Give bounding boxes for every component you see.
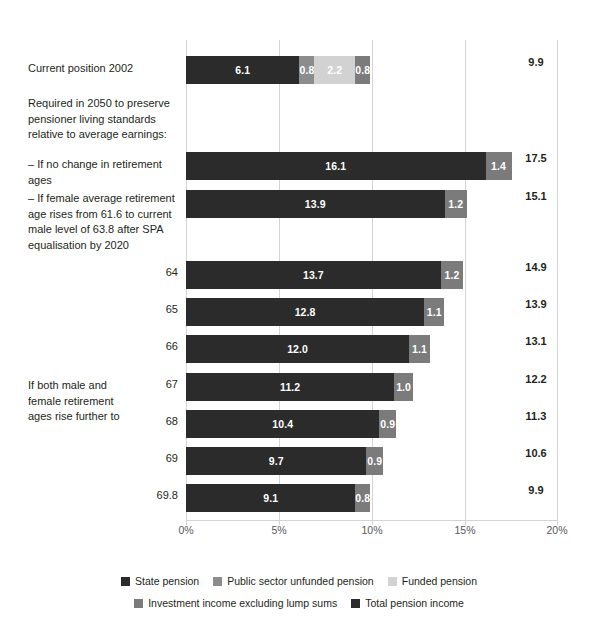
segment-investment-income: 1.2 [441,261,463,289]
legend-item-public-sector-unfunded-pension: Public sector unfunded pension [213,575,374,587]
bar-row-69-8: 9.1 0.8 9.9 [0,484,598,512]
pension-income-stacked-bar-chart: Current position 2002 Required in 2050 t… [0,0,598,639]
bar-row-69: 9.7 0.9 10.6 [0,447,598,475]
legend-label-funded-pension: Funded pension [402,575,477,587]
bar-row-current-position-2002: 6.1 0.8 2.2 0.8 9.9 [0,56,598,84]
legend-row-2: Investment income excluding lump sums To… [0,592,598,614]
stacked-bar: 16.1 1.4 [186,152,512,180]
segment-investment-income: 1.0 [394,373,413,401]
segment-state-pension: 12.0 [186,335,409,363]
bar-row-female-age-rise: 13.9 1.2 15.1 [0,190,598,218]
xtick-label-10pct: 10% [342,524,402,536]
segment-investment-income: 1.1 [424,298,444,326]
legend-swatch-icon-investment-income [134,599,143,608]
segment-investment-income: 0.9 [379,410,396,438]
segment-state-pension: 16.1 [186,152,486,180]
legend-row-1: State pension Public sector unfunded pen… [0,570,598,592]
bar-row-no-change: 16.1 1.4 17.5 [0,152,598,180]
row-total-value: 17.5 [514,152,558,164]
segment-investment-income: 0.8 [355,56,370,84]
legend-item-funded-pension: Funded pension [388,575,477,587]
segment-state-pension: 11.2 [186,373,394,401]
segment-investment-income: 0.9 [366,447,383,475]
intro-label: Required in 2050 to preserve pensioner l… [28,96,188,143]
xtick-label-20pct: 20% [527,524,587,536]
segment-state-pension: 6.1 [186,56,299,84]
segment-funded-pension: 2.2 [314,56,355,84]
row-total-value: 12.2 [514,373,558,385]
bar-row-65: 12.8 1.1 13.9 [0,298,598,326]
stacked-bar: 11.2 1.0 [186,373,413,401]
stacked-bar: 10.4 0.9 [186,410,396,438]
legend-swatch-icon-funded-pension [388,577,397,586]
segment-state-pension: 10.4 [186,410,379,438]
segment-investment-income: 1.4 [486,152,512,180]
legend-item-total-pension-income: Total pension income [351,597,464,609]
legend-item-investment-income: Investment income excluding lump sums [134,597,337,609]
bar-row-66: 12.0 1.1 13.1 [0,335,598,363]
stacked-bar: 9.7 0.9 [186,447,383,475]
legend-item-state-pension: State pension [121,575,199,587]
row-total-value: 13.9 [514,298,558,310]
stacked-bar: 6.1 0.8 2.2 0.8 [186,56,370,84]
segment-state-pension: 9.1 [186,484,355,512]
row-total-value: 10.6 [514,447,558,459]
row-total-value: 13.1 [514,335,558,347]
stacked-bar: 9.1 0.8 [186,484,370,512]
row-total-value: 14.9 [514,261,558,273]
segment-investment-income: 1.1 [409,335,430,363]
chart-legend: State pension Public sector unfunded pen… [0,570,598,614]
stacked-bar: 13.9 1.2 [186,190,467,218]
bar-row-64: 13.7 1.2 14.9 [0,261,598,289]
legend-swatch-icon-public-sector [213,577,222,586]
legend-swatch-icon-total-pension-income [351,599,360,608]
xtick-label-15pct: 15% [435,524,495,536]
segment-state-pension: 13.7 [186,261,441,289]
legend-swatch-icon-state-pension [121,577,130,586]
bar-row-68: 10.4 0.9 11.3 [0,410,598,438]
segment-state-pension: 12.8 [186,298,424,326]
legend-label-investment-income: Investment income excluding lump sums [148,597,337,609]
segment-investment-income: 1.2 [445,190,467,218]
stacked-bar: 12.8 1.1 [186,298,445,326]
legend-label-total-pension-income: Total pension income [365,597,464,609]
segment-state-pension: 9.7 [186,447,366,475]
segment-public-sector: 0.8 [299,56,314,84]
xtick-label-5pct: 5% [249,524,309,536]
stacked-bar: 13.7 1.2 [186,261,463,289]
legend-label-state-pension: State pension [135,575,199,587]
xtick-label-0pct: 0% [156,524,216,536]
row-total-value: 15.1 [514,190,558,202]
segment-investment-income: 0.8 [355,484,370,512]
segment-state-pension: 13.9 [186,190,445,218]
legend-label-public-sector: Public sector unfunded pension [227,575,374,587]
row-total-value: 9.9 [514,484,558,496]
bar-row-67: 11.2 1.0 12.2 [0,373,598,401]
stacked-bar: 12.0 1.1 [186,335,430,363]
row-total-value: 9.9 [514,56,558,68]
row-total-value: 11.3 [514,410,558,422]
